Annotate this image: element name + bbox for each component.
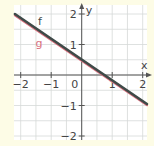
y-tick-label: −1	[60, 100, 76, 113]
x-tick-label: 2	[139, 78, 146, 91]
x-axis-arrow-icon	[146, 73, 152, 78]
y-tick-label: 1	[70, 39, 77, 52]
y-axis-label: y	[86, 4, 93, 17]
function-graph: −2−1012−2−112xy fg	[0, 0, 154, 146]
label-g: g	[36, 37, 43, 50]
y-tick-label: −2	[60, 130, 76, 143]
x-tick-label: −1	[43, 78, 59, 91]
x-tick-label: 0	[71, 78, 78, 91]
y-tick-label: 2	[70, 8, 77, 21]
x-tick-label: −2	[13, 78, 29, 91]
x-axis-label: x	[141, 59, 148, 72]
